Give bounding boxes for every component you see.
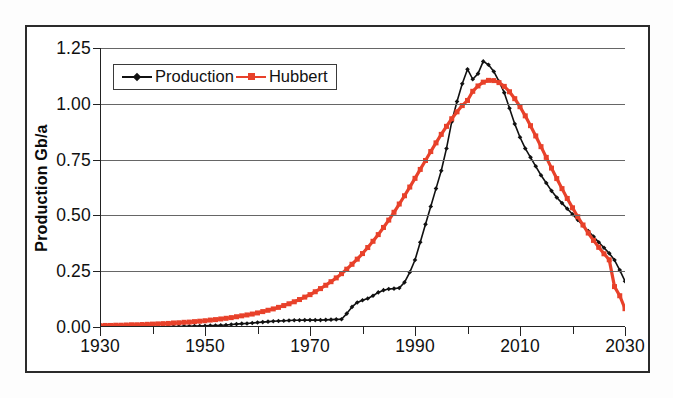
data-point xyxy=(444,124,449,129)
x-tick-mark xyxy=(363,327,364,334)
data-point xyxy=(481,80,486,85)
data-point xyxy=(507,89,512,94)
data-point xyxy=(386,218,391,223)
data-point xyxy=(528,123,533,128)
legend-item-production: Production xyxy=(122,67,234,86)
x-tick-mark xyxy=(310,327,311,336)
y-tick-label: 1.00 xyxy=(56,93,91,114)
data-point xyxy=(245,312,250,317)
data-point xyxy=(586,231,591,236)
data-point xyxy=(439,168,444,173)
data-point xyxy=(428,204,433,209)
x-tick-mark xyxy=(468,327,469,334)
data-point xyxy=(182,320,187,325)
y-tick-mark xyxy=(93,48,100,49)
data-point xyxy=(623,306,626,311)
data-point xyxy=(176,320,181,325)
series-production xyxy=(100,59,625,327)
data-point xyxy=(376,232,381,237)
data-point xyxy=(402,193,407,198)
data-point xyxy=(297,318,302,323)
data-point xyxy=(255,320,260,325)
y-tick-mark xyxy=(93,327,100,328)
data-point xyxy=(381,288,386,293)
legend-label-production: Production xyxy=(155,67,234,86)
data-point xyxy=(512,96,517,101)
data-point xyxy=(287,318,292,323)
y-axis-title: Production Gb/a xyxy=(30,48,54,327)
data-point xyxy=(591,238,596,243)
x-tick-label: 1950 xyxy=(185,336,225,357)
data-point xyxy=(250,312,255,317)
data-point xyxy=(350,262,355,267)
data-point xyxy=(224,316,229,321)
data-point xyxy=(617,293,622,298)
data-point xyxy=(602,251,607,256)
x-tick-mark xyxy=(415,327,416,336)
data-point xyxy=(423,222,428,227)
data-point xyxy=(271,319,276,324)
data-point xyxy=(323,283,328,288)
data-point xyxy=(297,297,302,302)
data-point xyxy=(329,317,334,322)
data-point xyxy=(318,286,323,291)
data-point xyxy=(250,321,255,326)
screenshot-frame: Production Gb/a 0.000.250.500.751.001.25… xyxy=(0,0,673,398)
data-point xyxy=(308,292,313,297)
data-point xyxy=(266,308,271,313)
data-point xyxy=(449,116,454,121)
data-point xyxy=(266,319,271,324)
x-tick-mark xyxy=(573,327,574,334)
y-axis-title-text: Production Gb/a xyxy=(33,124,51,251)
gridline xyxy=(100,215,625,216)
data-point xyxy=(581,223,586,228)
y-tick-mark xyxy=(93,271,100,272)
data-point xyxy=(455,109,460,114)
data-point xyxy=(371,239,376,244)
data-point xyxy=(418,240,423,245)
data-point xyxy=(260,309,265,314)
data-point xyxy=(318,318,323,323)
data-point xyxy=(549,166,554,171)
data-point xyxy=(302,295,307,300)
data-point xyxy=(607,257,612,262)
data-point xyxy=(596,245,601,250)
data-point xyxy=(392,286,397,291)
data-point xyxy=(197,319,202,324)
series-line xyxy=(100,80,625,325)
data-point xyxy=(292,318,297,323)
data-point xyxy=(208,318,213,323)
y-tick-label: 0.25 xyxy=(56,261,91,282)
series-hubbert xyxy=(100,78,625,327)
x-tick-mark xyxy=(153,327,154,334)
data-point xyxy=(271,306,276,311)
data-point xyxy=(444,146,449,151)
data-point xyxy=(570,205,575,210)
gridline xyxy=(100,104,625,105)
y-tick-label: 0.75 xyxy=(56,149,91,170)
data-point xyxy=(392,210,397,215)
chart-legend: Production Hubbert xyxy=(113,64,337,90)
data-point xyxy=(292,299,297,304)
data-point xyxy=(418,167,423,172)
data-point xyxy=(171,320,176,325)
data-point xyxy=(308,318,313,323)
data-point xyxy=(381,225,386,230)
data-point xyxy=(554,176,559,181)
square-marker-icon xyxy=(248,73,255,80)
data-point xyxy=(203,318,208,323)
data-point xyxy=(260,320,265,325)
data-point xyxy=(313,318,318,323)
chart-plot-area: 0.000.250.500.751.001.25 193019501970199… xyxy=(100,48,625,327)
x-tick-label: 2030 xyxy=(605,336,645,357)
data-point xyxy=(434,186,439,191)
gridline xyxy=(100,48,625,49)
data-point xyxy=(612,284,617,289)
data-point xyxy=(539,144,544,149)
data-point xyxy=(334,317,339,322)
data-point xyxy=(428,149,433,154)
x-tick-label: 1970 xyxy=(290,336,330,357)
data-point xyxy=(229,315,234,320)
data-point xyxy=(313,289,318,294)
diamond-marker-icon xyxy=(133,72,141,80)
